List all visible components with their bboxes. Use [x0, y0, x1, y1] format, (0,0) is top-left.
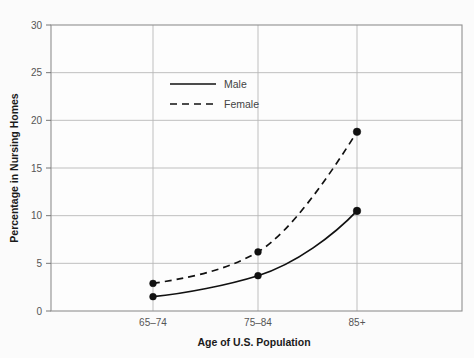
- y-tick-label-15: 15: [31, 163, 43, 174]
- y-tick-label-5: 5: [36, 258, 42, 269]
- x-tick-label-65-74: 65–74: [139, 317, 167, 328]
- y-tick-label-25: 25: [31, 67, 43, 78]
- data-point-female-75-84: [255, 249, 262, 256]
- x-tick-label-85plus: 85+: [349, 317, 366, 328]
- y-tick-label-30: 30: [31, 20, 43, 31]
- data-point-male-85plus: [353, 207, 361, 215]
- data-point-male-75-84: [255, 272, 262, 279]
- x-tick-label-75-84: 75–84: [244, 317, 272, 328]
- data-point-female-85plus: [353, 128, 361, 136]
- chart-figure: 0 5 10 15 20 25 30 65–74 75–84 85+ Age o…: [0, 0, 474, 358]
- x-axis-title: Age of U.S. Population: [197, 336, 310, 348]
- y-axis-tickmarks: [46, 25, 51, 311]
- line-chart: 0 5 10 15 20 25 30 65–74 75–84 85+ Age o…: [0, 0, 474, 358]
- y-tick-label-20: 20: [31, 115, 43, 126]
- data-point-female-65-74: [150, 280, 157, 287]
- legend-label-female: Female: [224, 98, 259, 110]
- y-tick-label-10: 10: [31, 210, 43, 221]
- y-tick-label-0: 0: [36, 306, 42, 317]
- data-point-male-65-74: [150, 293, 157, 300]
- legend-label-male: Male: [224, 78, 247, 90]
- y-axis-title: Percentage in Nursing Homes: [8, 93, 20, 243]
